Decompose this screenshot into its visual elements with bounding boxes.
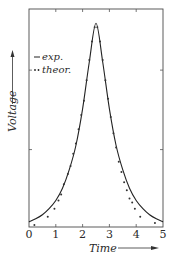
x-tick-label: 2: [79, 228, 86, 241]
theor-point: [67, 173, 69, 175]
theor-point: [134, 208, 136, 210]
plot-frame: [29, 9, 163, 227]
theor-point: [123, 181, 125, 183]
arrow-right-icon: [151, 246, 159, 250]
theor-point: [88, 59, 90, 61]
legend-dot-icon: [38, 69, 40, 71]
x-axis-label: Time: [89, 242, 117, 255]
x-tick-label: 0: [26, 228, 33, 241]
theor-point: [94, 26, 96, 28]
theor-point: [118, 161, 120, 163]
pulse-chart: 012345 exp. theor. Voltage Time: [0, 0, 175, 265]
legend-exp-label: exp.: [42, 51, 63, 62]
theor-point: [53, 208, 55, 210]
theor-point: [126, 189, 128, 191]
theor-point: [75, 142, 77, 144]
theor-point: [102, 59, 104, 61]
theor-point: [63, 183, 65, 185]
theor-point: [120, 171, 122, 173]
theor-point: [131, 202, 133, 204]
theor-point: [112, 132, 114, 134]
legend-theor-label: theor.: [42, 64, 71, 75]
theor-point: [80, 114, 82, 116]
theor-point: [129, 197, 131, 199]
theor-point: [104, 79, 106, 81]
theor-point: [57, 200, 59, 202]
theor-point: [33, 224, 35, 226]
y-axis-label-group: Voltage: [6, 50, 19, 132]
theor-point: [86, 79, 88, 81]
theor-point: [60, 193, 62, 195]
axis-ticks: [29, 9, 163, 227]
theor-point: [139, 216, 141, 218]
theor-point: [72, 153, 74, 155]
theor-point: [115, 147, 117, 149]
theor-point: [96, 26, 98, 28]
theor-point: [47, 216, 49, 218]
theor-point: [91, 41, 93, 43]
theor-point: [99, 41, 101, 43]
x-tick-label: 1: [52, 228, 59, 241]
x-tick-labels: 012345: [26, 228, 167, 241]
theor-point: [70, 165, 72, 167]
legend-dot-icon: [34, 69, 36, 71]
x-axis-label-group: Time: [89, 242, 159, 255]
x-tick-label: 4: [133, 228, 140, 241]
x-tick-label: 3: [106, 228, 113, 241]
theor-point: [154, 222, 156, 224]
theor-point: [78, 128, 80, 130]
theor-point: [107, 98, 109, 100]
theor-point: [110, 116, 112, 118]
legend: exp. theor.: [34, 51, 71, 75]
x-tick-label: 5: [160, 228, 167, 241]
arrow-up-icon: [11, 50, 15, 57]
theor-point: [83, 100, 85, 102]
